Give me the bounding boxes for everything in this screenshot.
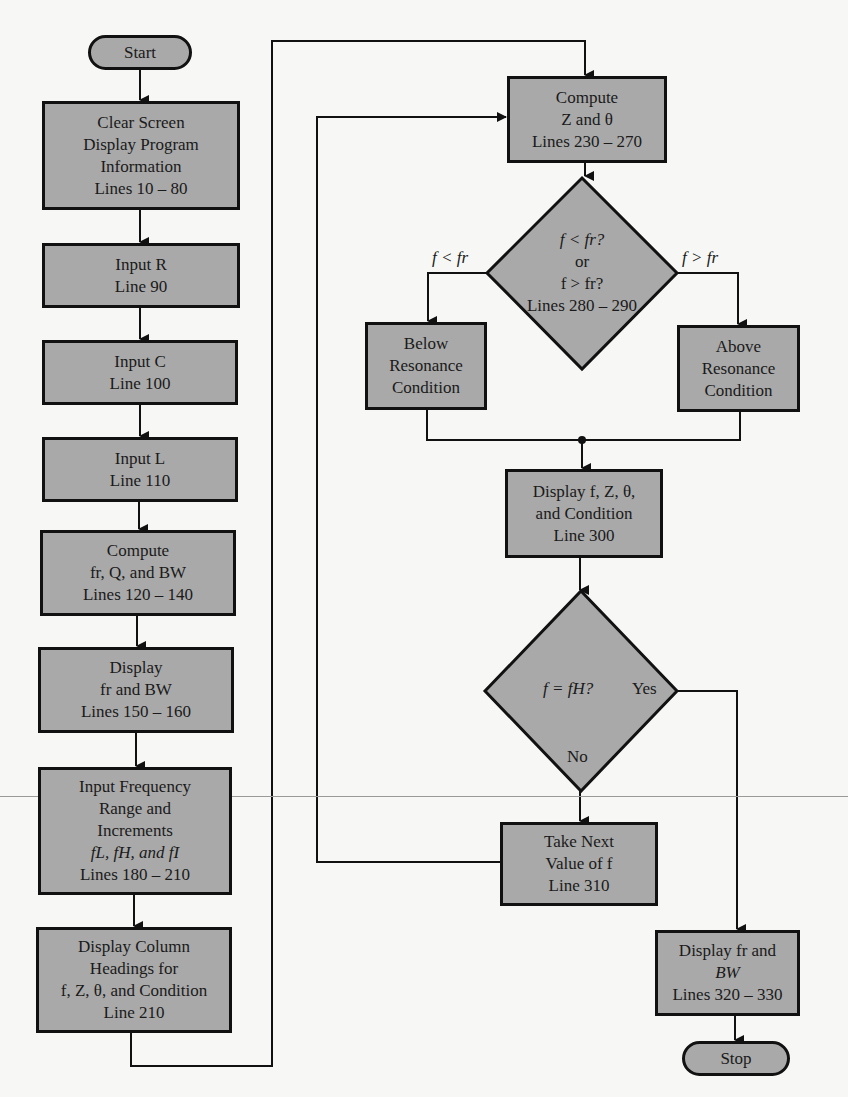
box-line: Line 100	[110, 373, 171, 395]
box-line: Lines 150 – 160	[81, 701, 191, 723]
yes-label: Yes	[632, 679, 657, 699]
stop-terminal: Stop	[682, 1041, 790, 1076]
branch-above-label: f > fr	[682, 248, 718, 268]
box-line: Line 110	[110, 470, 170, 492]
box-line: Above	[716, 336, 761, 358]
display-fr-bw-box: Display fr and BW Lines 150 – 160	[38, 647, 234, 733]
box-line: Display Program	[83, 134, 199, 156]
box-line: Value of f	[545, 853, 612, 875]
box-line: Headings for	[90, 958, 178, 980]
input-frequency-box: Input Frequency Range and Increments fL,…	[38, 767, 232, 895]
junction-dot	[578, 436, 586, 444]
input-r-box: Input R Line 90	[42, 243, 240, 308]
box-line: f, Z, θ, and Condition	[61, 980, 208, 1002]
box-line: Line 90	[115, 276, 167, 298]
input-c-box: Input C Line 100	[42, 340, 238, 405]
box-line: Increments	[97, 820, 173, 842]
start-terminal: Start	[88, 35, 192, 70]
box-line: BW	[715, 962, 740, 984]
box-line: fr, Q, and BW	[90, 562, 186, 584]
compute-fr-box: Compute fr, Q, and BW Lines 120 – 140	[40, 530, 236, 616]
diamond-line: f < fr?	[560, 229, 605, 251]
decision-resonance-text: f < fr? or f > fr? Lines 280 – 290	[497, 218, 667, 328]
start-label: Start	[124, 42, 156, 64]
display-final-box: Display fr and BW Lines 320 – 330	[655, 930, 800, 1016]
box-line: Input C	[114, 351, 165, 373]
box-line: Resonance	[389, 355, 463, 377]
box-line: Clear Screen	[97, 112, 184, 134]
box-line: Lines 230 – 270	[532, 131, 642, 153]
box-line: fr and BW	[100, 679, 172, 701]
clear-screen-box: Clear Screen Display Program Information…	[42, 101, 240, 210]
compute-z-theta-box: Compute Z and θ Lines 230 – 270	[507, 76, 667, 163]
box-line: Display Column	[78, 936, 190, 958]
box-line: Line 210	[104, 1002, 165, 1024]
box-line: Below	[404, 333, 448, 355]
box-line: Lines 320 – 330	[672, 984, 782, 1006]
box-line: fL, fH, and fI	[91, 842, 179, 864]
box-line: Line 300	[554, 525, 615, 547]
diamond-line: f > fr?	[561, 273, 604, 295]
box-line: Display	[110, 657, 163, 679]
box-line: Compute	[556, 87, 618, 109]
box-line: Display fr and	[679, 940, 776, 962]
display-f-z-theta-box: Display f, Z, θ, and Condition Line 300	[505, 469, 663, 558]
branch-below-label: f < fr	[432, 248, 468, 268]
box-line: Lines 10 – 80	[94, 178, 187, 200]
box-line: Lines 120 – 140	[83, 584, 193, 606]
box-line: Input Frequency	[79, 776, 191, 798]
box-line: and Condition	[536, 503, 633, 525]
diamond-line: or	[575, 251, 589, 273]
below-resonance-box: Below Resonance Condition	[365, 322, 487, 410]
box-line: Z and θ	[561, 109, 613, 131]
box-line: Input L	[115, 448, 166, 470]
box-line: Range and	[99, 798, 171, 820]
no-label: No	[567, 747, 588, 767]
box-line: Information	[100, 156, 181, 178]
box-line: Compute	[107, 540, 169, 562]
box-line: Line 310	[549, 875, 610, 897]
take-next-value-box: Take Next Value of f Line 310	[500, 822, 658, 906]
diamond-line: Lines 280 – 290	[527, 295, 637, 317]
box-line: Lines 180 – 210	[80, 864, 190, 886]
box-line: Condition	[392, 377, 460, 399]
display-headings-box: Display Column Headings for f, Z, θ, and…	[36, 927, 232, 1033]
box-line: Take Next	[544, 831, 614, 853]
stop-label: Stop	[720, 1048, 751, 1070]
box-line: Condition	[704, 380, 772, 402]
decision-end-text: f = fH?	[543, 679, 593, 699]
box-line: Display f, Z, θ,	[533, 481, 636, 503]
box-line: Input R	[115, 254, 166, 276]
above-resonance-box: Above Resonance Condition	[677, 325, 800, 412]
box-line: Resonance	[702, 358, 776, 380]
input-l-box: Input L Line 110	[42, 437, 238, 502]
